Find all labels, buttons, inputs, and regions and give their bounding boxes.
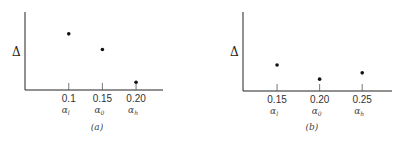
x-tick-label: 0.1 <box>62 93 76 104</box>
y-axis-label: Δ <box>230 45 239 59</box>
marks-b: 0.15αl0.20α00.25αh <box>267 63 372 117</box>
x-tick-label: 0.15 <box>93 93 113 104</box>
x-sublabel: αl <box>62 105 70 116</box>
data-point <box>101 48 105 52</box>
x-tick-label: 0.20 <box>310 94 330 105</box>
panel-a: Δ 0.1αl0.15α00.20αh (a) <box>12 12 163 132</box>
data-point <box>318 77 322 81</box>
marks-a: 0.1αl0.15α00.20αh <box>62 32 146 116</box>
data-point <box>134 80 138 84</box>
x-tick-label: 0.25 <box>352 94 372 105</box>
panel-b: Δ 0.15αl0.20α00.25αh (b) <box>230 12 392 132</box>
data-point <box>67 32 71 36</box>
x-tick-label: 0.20 <box>126 93 146 104</box>
panel-label: (a) <box>91 122 104 132</box>
x-sublabel: α0 <box>312 106 322 117</box>
x-sublabel: αh <box>354 106 364 117</box>
figure: Δ 0.1αl0.15α00.20αh (a) Δ 0.15αl0.20α00.… <box>0 0 400 143</box>
x-sublabel: α0 <box>94 105 104 116</box>
data-point <box>275 63 279 67</box>
panel-label: (b) <box>306 122 319 132</box>
x-tick-label: 0.15 <box>267 94 287 105</box>
data-point <box>360 71 364 75</box>
x-sublabel: αh <box>128 105 138 116</box>
x-sublabel: αl <box>270 106 278 117</box>
y-axis-label: Δ <box>12 45 21 59</box>
